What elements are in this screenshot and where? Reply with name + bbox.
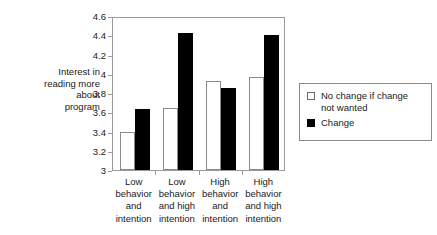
bar-change-group-2 [178, 33, 193, 170]
x-category-label: High behavior and high intention [235, 176, 292, 225]
legend-label-no-change: No change if change not wanted [321, 90, 429, 113]
y-tick-label: 4.2 [76, 51, 106, 61]
y-tick-label: 3.8 [76, 89, 106, 99]
bar-change-group-3 [221, 88, 236, 170]
bar-no-change-group-4 [249, 77, 264, 170]
x-tick-mark [199, 171, 200, 175]
legend-item-no-change: No change if change not wanted [307, 90, 429, 113]
y-tick-label: 3.4 [76, 128, 106, 138]
x-axis-category-labels: Low behavior and intentionLow behavior a… [104, 176, 300, 234]
bar-change-group-4 [264, 35, 279, 170]
plot-area [112, 17, 285, 171]
legend-item-change: Change [307, 117, 429, 129]
y-tick-label: 3.6 [76, 108, 106, 118]
y-tick-label: 4 [76, 70, 106, 80]
y-axis-tick-labels: 33.23.43.63.844.24.44.6 [76, 12, 106, 177]
x-tick-mark [242, 171, 243, 175]
legend-swatch-black-square-icon [307, 119, 315, 127]
x-tick-mark [155, 171, 156, 175]
y-tick-label: 4.4 [76, 31, 106, 41]
y-tick-label: 3 [76, 166, 106, 176]
bar-no-change-group-1 [120, 132, 135, 171]
y-tick-label: 3.2 [76, 147, 106, 157]
bar-no-change-group-2 [163, 108, 178, 170]
legend-swatch-white-square-icon [307, 92, 315, 100]
y-tick-label: 4.6 [76, 12, 106, 22]
bar-no-change-group-3 [206, 81, 221, 170]
legend-label-change: Change [321, 117, 429, 129]
bar-change-group-1 [135, 109, 150, 170]
bars-layer [113, 18, 284, 170]
chart-legend: No change if change not wanted Change [299, 83, 432, 141]
